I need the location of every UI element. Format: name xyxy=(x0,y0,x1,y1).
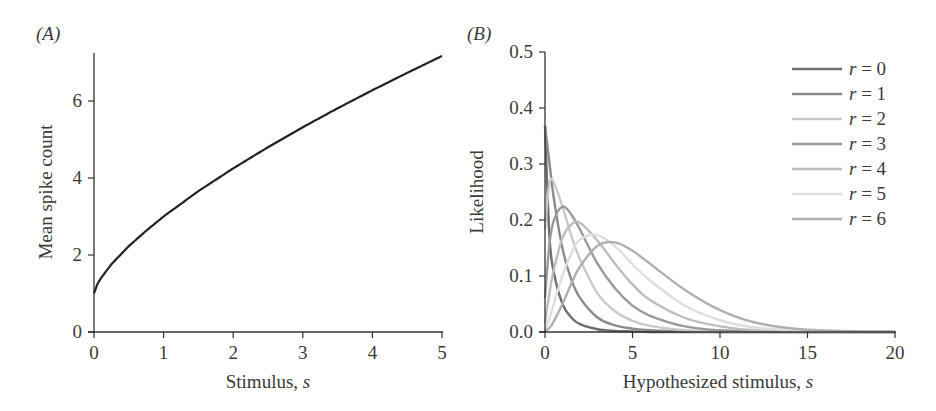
x-tick-label: 0 xyxy=(540,342,550,363)
panel-b-label: (B) xyxy=(467,23,491,45)
panel-a-label: (A) xyxy=(36,23,60,45)
legend-label: r = 4 xyxy=(849,158,887,179)
y-tick-label: 0.3 xyxy=(509,153,533,174)
likelihood-curve-r3 xyxy=(545,206,895,332)
legend-item: r = 4 xyxy=(792,158,887,179)
mean-spike-count-curve xyxy=(94,56,442,294)
panel-b-axes xyxy=(539,52,896,333)
panel-a-x-ticks: 012345 xyxy=(89,332,447,363)
x-tick-label: 5 xyxy=(628,342,638,363)
legend-item: r = 3 xyxy=(792,133,886,154)
y-tick-label: 0.1 xyxy=(509,265,533,286)
y-tick-label: 0.0 xyxy=(509,321,533,342)
x-tick-label: 10 xyxy=(711,342,730,363)
legend-item: r = 5 xyxy=(792,183,886,204)
y-tick-label: 0.4 xyxy=(509,97,533,118)
panel-a-y-ticks: 0246 xyxy=(73,90,95,342)
panel-b-y-axis-title: Likelihood xyxy=(466,150,487,234)
legend-label: r = 6 xyxy=(849,208,886,229)
panel-b-x-ticks: 05101520 xyxy=(540,332,904,363)
x-tick-label: 1 xyxy=(159,342,169,363)
legend-label: r = 0 xyxy=(849,58,886,79)
y-tick-label: 6 xyxy=(73,90,83,111)
x-tick-label: 20 xyxy=(886,342,905,363)
y-tick-label: 4 xyxy=(73,167,83,188)
legend-label: r = 3 xyxy=(849,133,886,154)
legend-item: r = 6 xyxy=(792,208,886,229)
panel-a-axes xyxy=(88,53,443,333)
figure: (A) 012345 0246 Stimulus, s Mean spike c… xyxy=(0,0,936,411)
panel-b-y-ticks: 0.00.10.20.30.40.5 xyxy=(509,41,545,342)
likelihood-curves xyxy=(545,126,895,332)
legend-item: r = 2 xyxy=(792,108,886,129)
legend-label: r = 1 xyxy=(849,83,886,104)
legend-label: r = 5 xyxy=(849,183,886,204)
panel-a-x-axis-title: Stimulus, s xyxy=(226,371,310,392)
x-tick-label: 0 xyxy=(89,342,99,363)
panel-a-y-axis-title: Mean spike count xyxy=(35,124,56,260)
panel-a: (A) 012345 0246 Stimulus, s Mean spike c… xyxy=(35,23,447,392)
legend-label: r = 2 xyxy=(849,108,886,129)
y-tick-label: 0.2 xyxy=(509,209,533,230)
x-tick-label: 5 xyxy=(437,342,447,363)
x-tick-label: 2 xyxy=(228,342,238,363)
panel-b-x-axis-title: Hypothesized stimulus, s xyxy=(623,371,814,392)
x-tick-label: 3 xyxy=(298,342,308,363)
x-tick-label: 15 xyxy=(798,342,817,363)
x-tick-label: 4 xyxy=(368,342,378,363)
y-tick-label: 2 xyxy=(73,244,83,265)
likelihood-curve-r0 xyxy=(545,126,895,332)
panel-b: (B) 05101520 0.00.10.20.30.40.5 r = 0r =… xyxy=(466,23,905,392)
legend: r = 0r = 1r = 2r = 3r = 4r = 5r = 6 xyxy=(792,58,887,229)
likelihood-curve-r1 xyxy=(545,126,895,332)
legend-item: r = 1 xyxy=(792,83,886,104)
y-tick-label: 0.5 xyxy=(509,41,533,62)
likelihood-curve-r4 xyxy=(545,221,895,332)
y-tick-label: 0 xyxy=(73,321,83,342)
legend-item: r = 0 xyxy=(792,58,886,79)
